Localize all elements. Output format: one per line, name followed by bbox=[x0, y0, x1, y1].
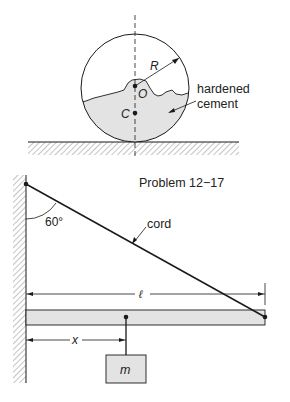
ground-hatch bbox=[28, 142, 239, 155]
x-arrow-left bbox=[27, 338, 33, 342]
beam-figure: Problem 12−17 60° cord ℓ x bbox=[13, 175, 267, 383]
label-R: R bbox=[150, 59, 159, 73]
cord-anchor-beam bbox=[263, 315, 268, 320]
cord-anchor-wall bbox=[24, 182, 29, 187]
hanger-point bbox=[124, 315, 129, 320]
x-arrow-right bbox=[119, 338, 125, 342]
label-hardened: hardened bbox=[197, 82, 250, 96]
diagram-canvas: R O C hardened cement Problem 12−17 60° … bbox=[0, 0, 290, 402]
radius-arrowhead bbox=[172, 58, 179, 64]
label-C: C bbox=[121, 107, 130, 121]
center-point-O bbox=[133, 84, 138, 89]
wall-hatch bbox=[13, 175, 26, 383]
label-x: x bbox=[71, 333, 79, 347]
sphere-figure: R O C hardened cement bbox=[28, 15, 250, 158]
cord bbox=[26, 184, 265, 317]
label-O: O bbox=[138, 87, 147, 101]
centroid-point-C bbox=[133, 111, 138, 116]
length-arrow-right bbox=[258, 292, 264, 296]
length-arrow-left bbox=[27, 292, 33, 296]
label-cement: cement bbox=[197, 97, 239, 111]
label-angle: 60° bbox=[45, 215, 63, 229]
label-cord: cord bbox=[147, 217, 171, 231]
beam bbox=[26, 310, 265, 325]
label-m: m bbox=[120, 363, 130, 377]
label-length: ℓ bbox=[138, 288, 143, 300]
cord-leader-arrowhead bbox=[132, 237, 137, 244]
problem-caption: Problem 12−17 bbox=[139, 176, 224, 190]
